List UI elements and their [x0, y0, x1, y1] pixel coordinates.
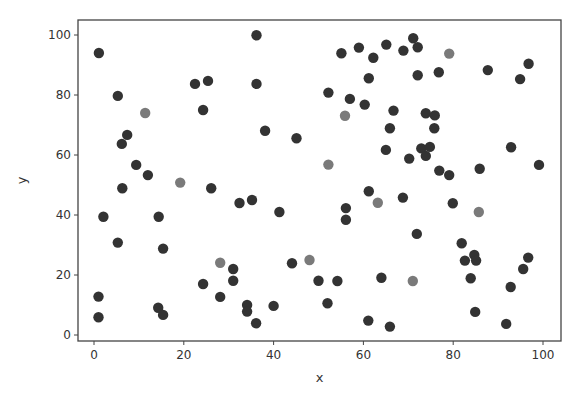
data-point: [274, 207, 284, 217]
data-point: [376, 273, 386, 283]
data-point: [322, 298, 332, 308]
data-point: [332, 276, 342, 286]
data-point: [364, 73, 374, 83]
data-point: [444, 48, 454, 58]
data-point: [175, 177, 185, 187]
data-point: [94, 48, 104, 58]
data-point: [515, 74, 525, 84]
data-point: [340, 111, 350, 121]
x-axis-label: x: [316, 370, 324, 385]
data-point: [381, 145, 391, 155]
data-point: [154, 212, 164, 222]
data-point: [434, 67, 444, 77]
data-point: [98, 212, 108, 222]
data-point: [506, 282, 516, 292]
data-point: [408, 276, 418, 286]
data-point: [534, 160, 544, 170]
y-tick-label: 20: [56, 268, 71, 282]
x-tick-label: 0: [90, 348, 98, 362]
data-point: [354, 42, 364, 52]
data-point: [131, 160, 141, 170]
data-point: [373, 198, 383, 208]
data-point: [466, 273, 476, 283]
data-point: [242, 306, 252, 316]
data-point: [421, 108, 431, 118]
data-point: [381, 39, 391, 49]
data-point: [368, 53, 378, 63]
data-point: [457, 238, 467, 248]
data-point: [287, 258, 297, 268]
data-point: [143, 170, 153, 180]
data-point: [412, 229, 422, 239]
data-point: [341, 203, 351, 213]
y-tick-label: 100: [48, 28, 71, 42]
data-point: [215, 258, 225, 268]
data-point: [471, 255, 481, 265]
y-tick-label: 0: [63, 328, 71, 342]
data-point: [251, 318, 261, 328]
data-point: [398, 192, 408, 202]
data-point: [429, 123, 439, 133]
data-point: [363, 315, 373, 325]
x-tick-label: 80: [446, 348, 461, 362]
x-axis-ticks: 020406080100: [90, 341, 554, 362]
y-tick-label: 40: [56, 208, 71, 222]
data-point: [470, 307, 480, 317]
data-point: [474, 207, 484, 217]
data-point: [228, 276, 238, 286]
data-point: [385, 321, 395, 331]
scatter-chart: 020406080100 020406080100 x y: [0, 0, 583, 401]
x-tick-label: 20: [176, 348, 191, 362]
data-point: [291, 133, 301, 143]
y-tick-label: 60: [56, 148, 71, 162]
data-point: [158, 243, 168, 253]
data-point: [113, 237, 123, 247]
data-point: [247, 195, 257, 205]
data-point: [448, 198, 458, 208]
data-point: [341, 215, 351, 225]
data-point: [413, 42, 423, 52]
data-point: [360, 99, 370, 109]
data-point: [501, 319, 511, 329]
data-point: [260, 126, 270, 136]
data-point: [483, 65, 493, 75]
data-point: [140, 108, 150, 118]
data-point: [113, 91, 123, 101]
data-point: [313, 276, 323, 286]
data-point: [430, 110, 440, 120]
data-point: [398, 45, 408, 55]
x-tick-label: 60: [356, 348, 371, 362]
data-point: [323, 159, 333, 169]
data-point: [404, 153, 414, 163]
data-point: [228, 264, 238, 274]
data-point: [345, 94, 355, 104]
data-point: [518, 264, 528, 274]
data-point: [117, 139, 127, 149]
data-point: [203, 76, 213, 86]
data-point: [523, 59, 533, 69]
data-point: [434, 165, 444, 175]
data-point: [460, 255, 470, 265]
data-point: [251, 79, 261, 89]
data-point: [234, 198, 244, 208]
y-tick-label: 80: [56, 88, 71, 102]
x-tick-label: 100: [532, 348, 555, 362]
data-point: [190, 79, 200, 89]
data-point: [323, 87, 333, 97]
data-point: [93, 291, 103, 301]
data-point: [268, 301, 278, 311]
y-axis-label: y: [14, 176, 29, 184]
data-point: [251, 30, 261, 40]
data-point: [117, 183, 127, 193]
data-point: [475, 164, 485, 174]
data-point: [158, 310, 168, 320]
data-point: [198, 279, 208, 289]
data-point: [388, 105, 398, 115]
data-point: [385, 123, 395, 133]
data-point: [304, 255, 314, 265]
data-point: [425, 142, 435, 152]
data-point: [421, 151, 431, 161]
data-point: [408, 33, 418, 43]
data-point: [364, 186, 374, 196]
data-point: [215, 292, 225, 302]
